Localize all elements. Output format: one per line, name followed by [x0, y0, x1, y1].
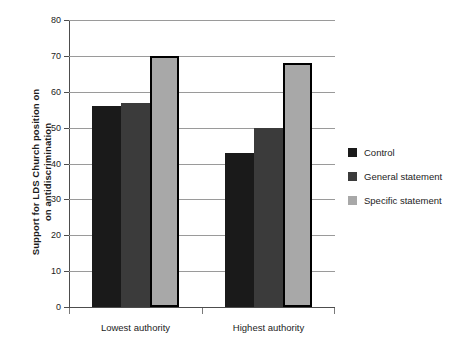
y-tick-label: 0 [56, 302, 61, 312]
gridline [69, 56, 335, 57]
y-tick-label: 50 [51, 123, 61, 133]
y-axis-title: Support for LDS Church position on on an… [30, 47, 54, 297]
bar [92, 106, 121, 307]
y-tick-label: 40 [51, 159, 61, 169]
y-tick-mark [64, 235, 69, 236]
y-axis-title-line-1: Support for LDS Church position on [30, 47, 42, 297]
legend-swatch-specific-statement [348, 196, 357, 205]
y-tick-label: 20 [51, 230, 61, 240]
x-axis-label: Lowest authority [101, 322, 170, 333]
y-tick-label: 10 [51, 266, 61, 276]
x-tick-mark [202, 308, 203, 314]
legend-item: Specific statement [348, 188, 442, 212]
y-tick-label: 30 [51, 194, 61, 204]
legend: Control General statement Specific state… [348, 140, 442, 212]
y-tick-mark [64, 128, 69, 129]
y-tick-mark [64, 164, 69, 165]
y-tick-mark [64, 92, 69, 93]
legend-swatch-control [348, 148, 357, 157]
legend-swatch-general-statement [348, 172, 357, 181]
x-axis-label: Highest authority [233, 322, 304, 333]
legend-label-control: Control [364, 147, 395, 158]
y-tick-mark [64, 199, 69, 200]
y-tick-label: 70 [51, 51, 61, 61]
y-tick-label: 60 [51, 87, 61, 97]
bar [283, 63, 312, 307]
legend-item: Control [348, 140, 442, 164]
legend-label-specific-statement: Specific statement [364, 195, 442, 206]
bar [121, 103, 150, 307]
legend-item: General statement [348, 164, 442, 188]
bar-chart: Support for LDS Church position on on an… [0, 0, 463, 346]
x-tick-mark [69, 308, 70, 314]
gridline [69, 20, 335, 21]
legend-label-general-statement: General statement [364, 171, 442, 182]
bar [150, 56, 179, 307]
y-tick-mark [64, 271, 69, 272]
y-axis-title-line-2: on antidiscrimination [42, 47, 54, 297]
x-tick-mark [334, 308, 335, 314]
y-tick-label: 80 [51, 15, 61, 25]
bar [254, 128, 283, 307]
y-tick-mark [64, 20, 69, 21]
bar [225, 153, 254, 307]
y-tick-mark [64, 56, 69, 57]
plot-area: 01020304050607080 Lowest authorityHighes… [69, 20, 335, 307]
